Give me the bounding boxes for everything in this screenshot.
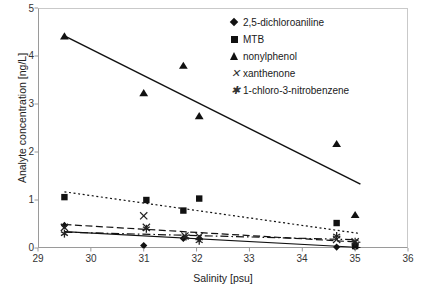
x-tick-33: 33 bbox=[234, 253, 264, 264]
x-tick-35: 35 bbox=[340, 253, 370, 264]
x-tick-36: 36 bbox=[393, 253, 423, 264]
diamond-marker-icon bbox=[228, 15, 242, 29]
y-tick-5: 5 bbox=[4, 4, 34, 14]
star-marker-icon: ✱ bbox=[228, 83, 242, 97]
x-axis-title: Salinity [psu] bbox=[38, 272, 408, 284]
legend-label-mtb: MTB bbox=[242, 34, 264, 45]
x-tick-34: 34 bbox=[287, 253, 317, 264]
y-tick-0: 0 bbox=[4, 243, 34, 253]
legend-label-nonylphenol: nonylphenol bbox=[242, 51, 297, 62]
x-tick-30: 30 bbox=[76, 253, 106, 264]
legend-label-xanthenone: xanthenone bbox=[242, 68, 295, 79]
legend-item-dichloroaniline: 2,5-dichloroaniline bbox=[228, 14, 408, 30]
chart-figure: 5 4 3 2 1 0 Analyte concentration [ng/L]… bbox=[0, 0, 423, 297]
y-axis-title: Analyte concentration [ng/L] bbox=[16, 23, 28, 213]
triangle-marker-icon bbox=[228, 49, 242, 63]
chart-legend: 2,5-dichloroaniline MTB nonylphenol ✕ xa… bbox=[228, 14, 408, 99]
legend-item-xanthenone: ✕ xanthenone bbox=[228, 65, 408, 81]
x-marker-icon: ✕ bbox=[228, 66, 242, 80]
legend-label-chloronitrobenzene: 1-chloro-3-nitrobenzene bbox=[242, 85, 349, 96]
legend-item-chloronitrobenzene: ✱ 1-chloro-3-nitrobenzene bbox=[228, 82, 408, 98]
legend-label-dichloroaniline: 2,5-dichloroaniline bbox=[242, 17, 324, 28]
figure-caption bbox=[8, 288, 418, 296]
x-tick-31: 31 bbox=[129, 253, 159, 264]
x-tick-32: 32 bbox=[182, 253, 212, 264]
legend-item-mtb: MTB bbox=[228, 31, 408, 47]
square-marker-icon bbox=[228, 32, 242, 46]
legend-item-nonylphenol: nonylphenol bbox=[228, 48, 408, 64]
x-tick-29: 29 bbox=[23, 253, 53, 264]
